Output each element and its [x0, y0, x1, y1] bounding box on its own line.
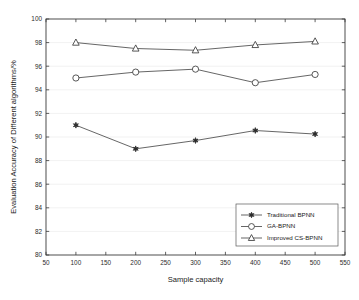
- y-tick-label: 90: [35, 133, 43, 140]
- data-marker-triangle: [312, 38, 319, 44]
- data-marker-circle: [252, 80, 258, 86]
- line-chart: 50100150200250300350400450500550 8082848…: [0, 0, 359, 300]
- legend-label: GA-BPNN: [267, 222, 295, 229]
- y-axis-title: Evaluation Accuracy of Different algorit…: [9, 60, 18, 214]
- data-marker-triangle: [73, 39, 80, 45]
- x-tick-label: 550: [340, 259, 351, 266]
- x-tick-label: 50: [42, 259, 50, 266]
- x-tick-label: 200: [130, 259, 141, 266]
- y-axis-tick-labels: 80828486889092949698100: [31, 15, 42, 258]
- y-tick-label: 94: [35, 86, 43, 93]
- y-tick-label: 100: [31, 15, 42, 22]
- x-tick-label: 150: [100, 259, 111, 266]
- legend-label: Improved CS-BPNN: [267, 234, 322, 241]
- data-marker-circle: [192, 66, 198, 72]
- x-tick-label: 100: [71, 259, 82, 266]
- data-marker-circle: [73, 75, 79, 81]
- y-tick-label: 80: [35, 251, 43, 258]
- y-tick-label: 84: [35, 204, 43, 211]
- data-marker-star: [73, 122, 78, 128]
- y-tick-label: 92: [35, 110, 43, 117]
- x-tick-label: 350: [220, 259, 231, 266]
- y-tick-label: 96: [35, 63, 43, 70]
- data-series: [73, 38, 319, 152]
- x-tick-label: 400: [250, 259, 261, 266]
- data-marker-circle: [312, 71, 318, 77]
- data-marker-circle: [249, 224, 255, 230]
- chart-legend: Traditional BPNNGA-BPNNImproved CS-BPNN: [236, 204, 338, 246]
- legend-label: Traditional BPNN: [267, 211, 315, 218]
- series-1: [73, 66, 318, 86]
- chart-figure: 50100150200250300350400450500550 8082848…: [0, 0, 359, 300]
- x-tick-label: 250: [160, 259, 171, 266]
- series-2: [73, 38, 319, 53]
- data-marker-circle: [133, 69, 139, 75]
- x-tick-label: 300: [190, 259, 201, 266]
- y-tick-label: 98: [35, 39, 43, 46]
- x-axis-tick-labels: 50100150200250300350400450500550: [42, 259, 350, 266]
- y-tick-label: 82: [35, 228, 43, 235]
- x-tick-label: 450: [280, 259, 291, 266]
- x-tick-label: 500: [310, 259, 321, 266]
- y-tick-label: 86: [35, 181, 43, 188]
- x-axis-title: Sample capacity: [168, 275, 224, 284]
- y-tick-label: 88: [35, 157, 43, 164]
